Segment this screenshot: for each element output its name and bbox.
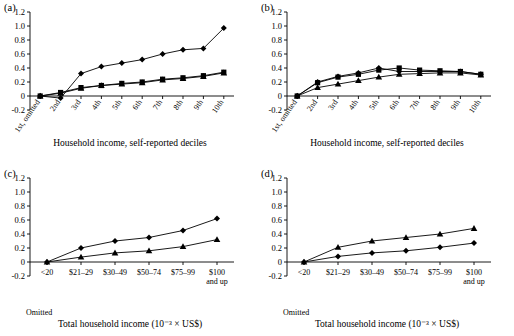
svg-text:1.0: 1.0 <box>271 187 282 197</box>
svg-text:4th: 4th <box>347 98 360 112</box>
svg-text:3rd: 3rd <box>69 98 82 112</box>
svg-text:10th: 10th <box>467 98 483 115</box>
svg-text:0.6: 0.6 <box>14 49 25 59</box>
svg-text:0: 0 <box>278 257 282 267</box>
svg-text:$21–29: $21–29 <box>69 268 93 277</box>
svg-text:-0.2: -0.2 <box>269 271 282 281</box>
svg-text:7th: 7th <box>408 98 421 112</box>
svg-text:6th: 6th <box>388 98 401 112</box>
svg-text:<20: <20 <box>41 268 54 277</box>
svg-text:6th: 6th <box>131 98 144 112</box>
svg-text:4th: 4th <box>90 98 103 112</box>
svg-text:<20: <20 <box>298 268 311 277</box>
svg-text:1.2: 1.2 <box>14 7 25 17</box>
svg-text:0.6: 0.6 <box>271 49 282 59</box>
svg-text:$50–74: $50–74 <box>137 268 161 277</box>
svg-text:$21–29: $21–29 <box>326 268 350 277</box>
svg-text:1.2: 1.2 <box>14 173 25 183</box>
panel-c-xlabel: Total household income (10⁻³ × US$) <box>20 318 240 329</box>
svg-text:10th: 10th <box>210 98 226 115</box>
panel-a-xlabel: Household income, self-reported deciles <box>20 138 240 148</box>
panel-d-xlabel: Total household income (10⁻³ × US$) <box>277 318 497 329</box>
panel-d-omitted-note: Omitted <box>283 308 309 317</box>
svg-text:0.4: 0.4 <box>14 63 25 73</box>
panel-b-plot: -0.200.20.40.60.81.01.21st, omitted2nd3r… <box>257 6 497 136</box>
svg-text:8th: 8th <box>171 98 184 112</box>
svg-text:0.4: 0.4 <box>14 229 25 239</box>
svg-text:9th: 9th <box>192 98 205 112</box>
panel-d-plot: -0.200.20.40.60.81.01.2<20$21–29$30–49$5… <box>257 172 497 302</box>
svg-text:0.4: 0.4 <box>271 229 282 239</box>
svg-text:0.8: 0.8 <box>271 35 282 45</box>
figure-container: (a) -0.200.20.40.60.81.01.21st, omitted2… <box>0 0 514 336</box>
svg-text:0.8: 0.8 <box>14 201 25 211</box>
svg-text:0.2: 0.2 <box>14 77 25 87</box>
svg-text:0.8: 0.8 <box>14 35 25 45</box>
svg-text:9th: 9th <box>449 98 462 112</box>
svg-text:-0.2: -0.2 <box>12 271 25 281</box>
svg-text:3rd: 3rd <box>326 98 339 112</box>
svg-text:1.2: 1.2 <box>271 7 282 17</box>
svg-text:1.0: 1.0 <box>14 21 25 31</box>
svg-text:0.2: 0.2 <box>271 77 282 87</box>
svg-text:$30–49: $30–49 <box>360 268 384 277</box>
svg-text:$100: $100 <box>466 268 482 277</box>
svg-text:2nd: 2nd <box>305 98 319 113</box>
svg-text:0.2: 0.2 <box>14 243 25 253</box>
panel-c-plot: -0.200.20.40.60.81.01.2<20$21–29$30–49$5… <box>0 172 240 302</box>
panel-b-xlabel: Household income, self-reported deciles <box>277 138 497 148</box>
svg-text:$75–99: $75–99 <box>428 268 452 277</box>
svg-text:0.8: 0.8 <box>271 201 282 211</box>
svg-text:0.4: 0.4 <box>271 63 282 73</box>
svg-text:0: 0 <box>21 257 25 267</box>
svg-text:$75–99: $75–99 <box>171 268 195 277</box>
svg-text:1.0: 1.0 <box>271 21 282 31</box>
svg-text:5th: 5th <box>367 98 380 112</box>
svg-text:8th: 8th <box>428 98 441 112</box>
svg-text:and up: and up <box>206 277 228 286</box>
svg-text:1st, omitted: 1st, omitted <box>270 98 299 134</box>
svg-text:and up: and up <box>463 277 485 286</box>
svg-text:1.0: 1.0 <box>14 187 25 197</box>
svg-text:$30–49: $30–49 <box>103 268 127 277</box>
svg-text:$100: $100 <box>209 268 225 277</box>
svg-text:7th: 7th <box>151 98 164 112</box>
svg-text:5th: 5th <box>110 98 123 112</box>
panel-a-plot: -0.200.20.40.60.81.01.21st, omitted2nd3r… <box>0 6 240 136</box>
svg-text:$50–74: $50–74 <box>394 268 418 277</box>
panel-c-omitted-note: Omitted <box>26 308 52 317</box>
svg-text:0: 0 <box>278 91 282 101</box>
svg-text:0.6: 0.6 <box>271 215 282 225</box>
svg-text:1st, omitted: 1st, omitted <box>13 98 42 134</box>
svg-text:0.6: 0.6 <box>14 215 25 225</box>
svg-text:1.2: 1.2 <box>271 173 282 183</box>
svg-text:0: 0 <box>21 91 25 101</box>
svg-text:0.2: 0.2 <box>271 243 282 253</box>
